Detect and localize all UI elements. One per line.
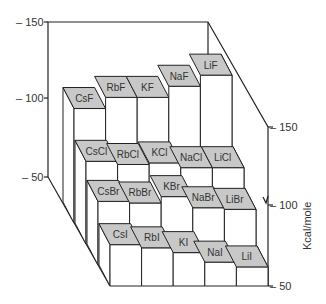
- bar-label: CsCl: [85, 146, 107, 157]
- bar-front-face: [236, 267, 268, 286]
- bar-label: NaI: [207, 247, 223, 258]
- bar-label: KBr: [163, 181, 180, 192]
- right-tick-150: – 150: [270, 121, 298, 133]
- bar-label: LiCl: [214, 152, 231, 163]
- right-tick-100: – 100: [270, 199, 298, 211]
- left-tick-50: – 50: [22, 171, 43, 183]
- bar-label: LiBr: [226, 194, 244, 205]
- bar-label: LiF: [204, 60, 218, 71]
- bar-front-face: [173, 253, 205, 286]
- bar-label: NaCl: [180, 152, 202, 163]
- bars-group: CsFRbFKFNaFLiFCsClRbClKClNaClLiClCsBrRbB…: [63, 54, 268, 286]
- bar-label: KI: [179, 237, 188, 248]
- bar-label: NaF: [170, 71, 189, 82]
- left-tick-100: – 100: [16, 92, 44, 104]
- bar-chart-3d: – 150 – 100 – 50 – 150 – 100 – 50 Kcal/m…: [0, 0, 326, 304]
- y-axis-label: Kcal/mole: [301, 202, 313, 250]
- bar-side-face: [63, 88, 74, 223]
- bar-label: RbF: [106, 82, 125, 93]
- bar-label: CsI: [113, 229, 128, 240]
- bar-front-face: [110, 245, 142, 286]
- bar-label: KCl: [151, 147, 167, 158]
- bar-label: LiI: [241, 251, 252, 262]
- bar-label: RbBr: [129, 187, 152, 198]
- bar-label: CsBr: [97, 186, 120, 197]
- bar-front-face: [205, 262, 237, 286]
- bar-label: KF: [141, 82, 154, 93]
- axis-break-mark: [263, 196, 268, 203]
- bar-label: RbCl: [117, 149, 139, 160]
- bar-front-face: [142, 248, 174, 286]
- right-tick-50: – 50: [270, 280, 291, 292]
- bar-label: RbI: [144, 232, 160, 243]
- bar-label: CsF: [75, 93, 93, 104]
- bar-label: NaBr: [192, 192, 215, 203]
- left-tick-150: – 150: [16, 16, 44, 28]
